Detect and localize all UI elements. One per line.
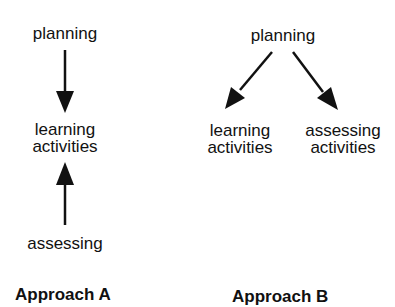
arrow-a-planning-to-learning: [56, 50, 74, 113]
approach-b-caption: Approach B: [232, 287, 328, 307]
b-assessing-line2: activities: [293, 139, 393, 156]
arrow-a-assessing-to-learning: [56, 162, 74, 225]
b-assessing-activities-label: assessing activities: [293, 122, 393, 156]
arrow-b-planning-to-learning: [225, 52, 272, 109]
a-learning-activities-label: learning activities: [15, 121, 115, 155]
b-learning-line2: activities: [190, 139, 290, 156]
b-assessing-line1: assessing: [293, 122, 393, 139]
a-planning-label: planning: [25, 25, 105, 42]
a-learning-line1: learning: [15, 121, 115, 138]
a-learning-line2: activities: [15, 138, 115, 155]
a-assessing-label: assessing: [15, 235, 115, 252]
b-learning-activities-label: learning activities: [190, 122, 290, 156]
b-planning-label: planning: [243, 27, 323, 44]
approach-a-caption: Approach A: [15, 285, 111, 305]
b-learning-line1: learning: [190, 122, 290, 139]
arrow-b-planning-to-assessing: [293, 52, 338, 110]
